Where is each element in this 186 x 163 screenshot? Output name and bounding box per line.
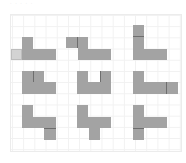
shape-bar [77,82,111,94]
shape-stem [77,105,88,117]
extra-square [133,129,144,140]
extra-square [89,128,100,140]
shape-bar [22,117,56,128]
shape-bar [133,82,167,94]
extra-square [133,25,144,36]
shape-bar [22,49,56,60]
shape-stem [133,71,144,82]
shape-bar [133,49,167,60]
shape-stem [133,105,144,117]
shape-stem [22,105,33,117]
extra-square [34,71,44,82]
shape-stem [22,71,33,82]
extra-square [100,71,111,82]
shape-stem [77,71,88,82]
shape-bar [77,117,111,128]
extra-square [66,37,77,48]
shape-stem [22,37,33,49]
extra-square [44,129,56,140]
shape-bar [78,49,111,60]
shape-stem [133,37,144,49]
shape-bar [133,117,167,128]
shape-stem [78,37,88,49]
caption-label: · · · · · [10,0,33,6]
divider [33,71,34,82]
shape-bar [22,82,56,94]
divider [100,71,101,82]
highlight-cell [11,49,22,60]
extra-square [167,82,178,94]
